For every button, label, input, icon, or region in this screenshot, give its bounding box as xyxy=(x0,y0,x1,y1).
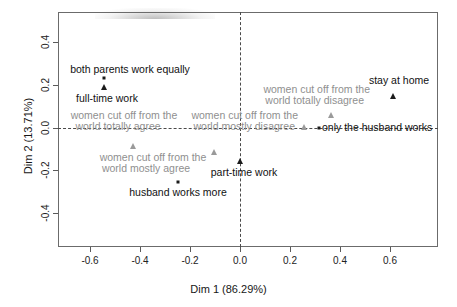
x-axis-title: Dim 1 (86.29%) xyxy=(0,283,457,295)
x-tick-mark xyxy=(340,247,341,252)
point-label-stay-at-home: stay at home xyxy=(369,75,429,87)
data-point-part-time-work[interactable] xyxy=(237,158,243,164)
point-label-husband-works-more: husband works more xyxy=(129,187,226,199)
x-tick-mark xyxy=(240,247,241,252)
data-point-mostly-agree[interactable] xyxy=(130,143,136,149)
mca-factor-map: -0.6 -0.4 -0.2 0.0 0.2 0.4 0.6 -0.4 -0.2… xyxy=(0,0,457,307)
point-label-full-time-work: full-time work xyxy=(76,93,138,105)
point-label-mostly-disagree-line2: world mostly disagree xyxy=(193,121,295,133)
data-point-both-parents-work-equally[interactable] xyxy=(103,77,106,80)
x-tick-mark xyxy=(140,247,141,252)
x-tick-mark xyxy=(390,247,391,252)
y-tick-mark xyxy=(53,213,58,214)
data-point-unlabeled-mostly-agree-category[interactable] xyxy=(211,149,217,155)
point-label-totally-agree-line2: world totally agree xyxy=(75,121,160,133)
x-tick-label: -0.2 xyxy=(181,255,198,266)
x-tick-mark xyxy=(290,247,291,252)
y-tick-label: -0.2 xyxy=(40,155,51,185)
point-label-only-the-husband-works: only the husband works xyxy=(322,122,432,134)
x-tick-label: 0.6 xyxy=(383,255,397,266)
x-tick-label: -0.4 xyxy=(131,255,148,266)
data-point-totally-disagree[interactable] xyxy=(328,112,334,118)
x-tick-label: 0.2 xyxy=(283,255,297,266)
data-point-full-time-work[interactable] xyxy=(101,84,107,90)
y-tick-mark xyxy=(53,42,58,43)
y-tick-mark xyxy=(53,128,58,129)
data-point-stay-at-home[interactable] xyxy=(390,93,396,99)
y-axis-title: Dim 2 (13.71%) xyxy=(22,56,34,216)
y-tick-label: 0.0 xyxy=(40,113,51,143)
point-label-totally-disagree-line2: world totally disagree xyxy=(265,95,364,107)
y-tick-mark xyxy=(53,85,58,86)
point-label-part-time-work: part-time work xyxy=(211,167,278,179)
point-label-both-parents-work-equally: both parents work equally xyxy=(70,64,190,76)
y-tick-label: -0.4 xyxy=(40,198,51,228)
point-label-mostly-agree-line2: world mostly agree xyxy=(102,163,190,175)
data-point-only-the-husband-works[interactable] xyxy=(318,127,321,130)
data-point-husband-works-more[interactable] xyxy=(177,181,180,184)
y-tick-label: 0.2 xyxy=(40,70,51,100)
y-tick-label: 0.4 xyxy=(40,27,51,57)
x-tick-mark xyxy=(190,247,191,252)
y-tick-mark xyxy=(53,170,58,171)
x-tick-mark xyxy=(90,247,91,252)
x-tick-label: 0.0 xyxy=(233,255,247,266)
x-tick-label: -0.6 xyxy=(81,255,98,266)
x-tick-label: 0.4 xyxy=(333,255,347,266)
data-point-mostly-disagree[interactable] xyxy=(301,124,307,130)
